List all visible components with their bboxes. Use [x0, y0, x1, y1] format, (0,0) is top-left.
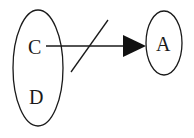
- label-a: A: [156, 33, 171, 55]
- diagram-canvas: C D A: [0, 0, 194, 138]
- arrowhead-icon: [123, 35, 146, 57]
- label-d: D: [29, 86, 43, 108]
- diagram-svg: C D A: [0, 0, 194, 138]
- label-c: C: [28, 36, 41, 58]
- left-set-ellipse: [13, 10, 63, 126]
